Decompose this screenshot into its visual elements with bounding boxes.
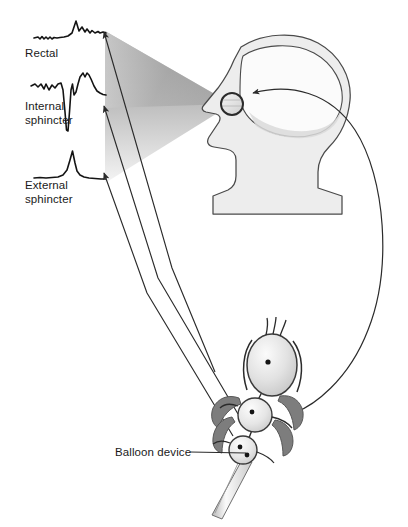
rectal-balloon-body bbox=[247, 334, 297, 396]
label-balloon-device: Balloon device bbox=[115, 446, 191, 458]
sensor-dot-internal-sphincter bbox=[250, 410, 255, 415]
trace-external-sphincter bbox=[34, 151, 106, 179]
rectal-balloon bbox=[244, 317, 302, 396]
sensor-dot-external-sphincter bbox=[238, 445, 243, 450]
label-internal-sphincter-line2: sphincter bbox=[25, 114, 73, 126]
eye-outline bbox=[221, 93, 243, 115]
figure-canvas: Rectal Internal sphincter External sphin… bbox=[0, 0, 408, 527]
label-internal-sphincter-line1: Internal bbox=[25, 100, 64, 112]
eye bbox=[221, 93, 243, 115]
anorectal-biofeedback-figure: Rectal Internal sphincter External sphin… bbox=[0, 0, 408, 527]
head-profile bbox=[202, 35, 350, 214]
internal-sphincter-balloon-body bbox=[238, 398, 272, 432]
label-rectal: Rectal bbox=[25, 47, 58, 59]
external-balloon-wisp-right bbox=[257, 452, 274, 463]
catheter-tube bbox=[212, 458, 252, 519]
trace-rectal bbox=[34, 21, 106, 39]
external-sphincter-balloon-body bbox=[229, 436, 257, 464]
sensor-dot-rectal bbox=[265, 359, 270, 364]
label-external-sphincter-line1: External bbox=[25, 179, 68, 191]
rectal-balloon-wisp-1 bbox=[266, 318, 268, 335]
balloon-device-callout: Balloon device bbox=[115, 446, 246, 458]
rectal-balloon-wisp-3 bbox=[280, 320, 286, 336]
label-external-sphincter-line2: sphincter bbox=[25, 193, 73, 205]
balloon-device bbox=[212, 317, 304, 519]
rectal-balloon-wisp-2 bbox=[273, 317, 276, 334]
